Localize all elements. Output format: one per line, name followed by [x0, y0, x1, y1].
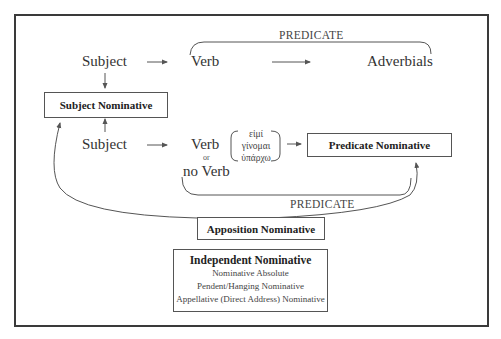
no-verb: no Verb [183, 164, 230, 179]
apposition-nominative-label: Apposition Nominative [207, 223, 316, 235]
independent-item-absolute: Nominative Absolute [174, 267, 327, 280]
predicate-nominative-box: Predicate Nominative [307, 133, 452, 157]
subject-nominative-box: Subject Nominative [44, 92, 168, 118]
apposition-nominative-box: Apposition Nominative [197, 217, 325, 240]
independent-item-pendent: Pendent/Hanging Nominative [174, 280, 327, 293]
or-label: or [203, 154, 210, 162]
predicate-nominative-label: Predicate Nominative [329, 139, 431, 151]
independent-item-appellative: Appellative (Direct Address) Nominative [174, 293, 327, 306]
greek-verb-ginomai: γίνομαι [234, 140, 278, 152]
subject-bottom: Subject [82, 137, 127, 152]
greek-verb-eimi: εἰμί [234, 128, 278, 140]
independent-nominative-box: Independent Nominative Nominative Absolu… [173, 249, 328, 312]
predicate-label-top: PREDICATE [279, 30, 344, 42]
verb-top: Verb [191, 54, 219, 69]
subject-top: Subject [82, 54, 127, 69]
subject-nominative-label: Subject Nominative [60, 99, 153, 111]
predicate-label-bottom: PREDICATE [290, 199, 355, 211]
verb-bottom: Verb [191, 137, 219, 152]
greek-verb-hyparcho: ὑπάρχω [234, 152, 278, 164]
adverbials: Adverbials [367, 54, 433, 69]
greek-verbs-list: εἰμί γίνομαι ὑπάρχω [234, 128, 278, 164]
independent-nominative-title: Independent Nominative [174, 253, 327, 267]
